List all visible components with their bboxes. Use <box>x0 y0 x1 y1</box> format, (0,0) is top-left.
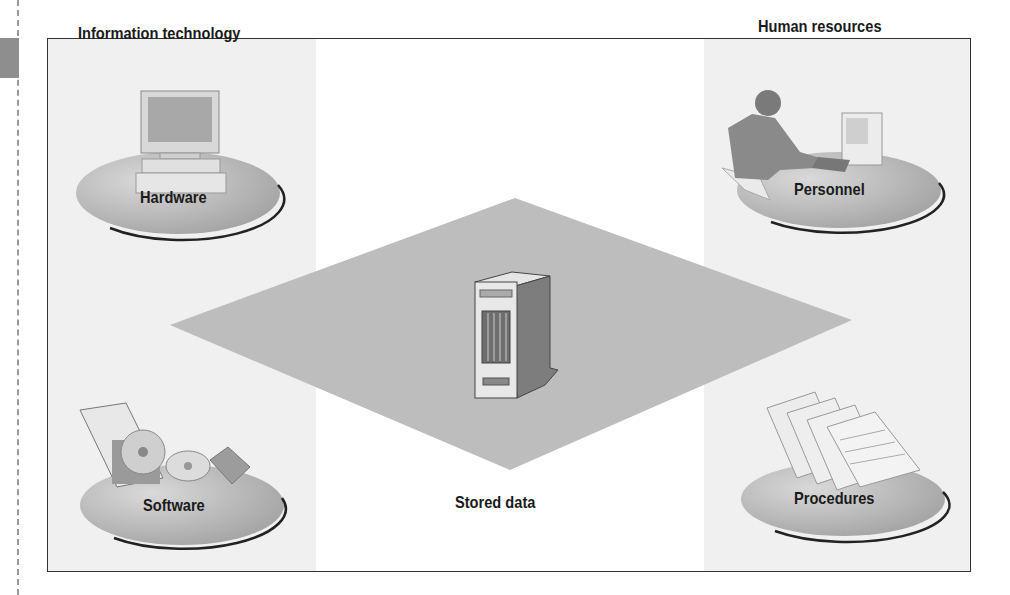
component-label-hardware: Hardware <box>140 188 207 208</box>
group-title-it: Information technology <box>78 24 240 44</box>
desktop-computer-icon <box>136 91 226 193</box>
component-label-procedures: Procedures <box>794 489 874 509</box>
server-tower-icon <box>475 272 558 398</box>
group-title-hr: Human resources <box>758 17 882 37</box>
component-label-stored-data: Stored data <box>455 493 535 513</box>
component-label-software: Software <box>143 496 205 516</box>
component-label-personnel: Personnel <box>794 180 865 200</box>
